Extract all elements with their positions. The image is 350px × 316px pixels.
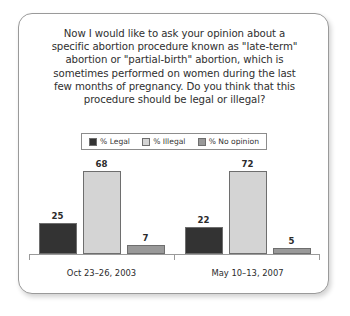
axis-tick-middle [174,255,175,260]
axis-tick-left [29,255,30,260]
chart-legend: % Legal % Illegal % No opinion [81,133,267,150]
bar-rect-illegal-1 [229,171,267,254]
category-label-1: May 10–13, 2007 [175,268,320,278]
bar-rect-legal-1 [185,227,223,254]
legend-item-illegal: % Illegal [142,138,185,146]
legend-swatch-legal-icon [89,138,97,146]
question-line-5: few months of pregnancy. Do you think th… [30,80,319,93]
bar-no-opinion-1: 5 [273,159,311,254]
bar-rect-no-opinion-1 [273,248,311,254]
question-line-1: Now I would like to ask your opinion abo… [30,27,319,40]
legend-item-no-opinion: % No opinion [198,138,259,146]
bar-rect-no-opinion-0 [127,245,165,254]
chart-card: Now I would like to ask your opinion abo… [18,13,329,294]
plot-area: 25 68 7 22 72 [29,160,320,284]
axis-tick-right [319,255,320,260]
legend-label-illegal: % Illegal [153,138,185,146]
question-text: Now I would like to ask your opinion abo… [30,27,319,106]
question-line-6: procedure should be legal or illegal? [30,93,319,106]
legend-swatch-illegal-icon [142,138,150,146]
category-label-0: Oct 23–26, 2003 [29,268,174,278]
bar-value-illegal-0: 68 [96,159,108,169]
bar-rect-legal-0 [39,223,77,254]
bar-rect-illegal-0 [83,171,121,254]
bar-group-1: 22 72 5 [175,159,320,254]
bar-no-opinion-0: 7 [127,159,165,254]
bar-legal-0: 25 [39,159,77,254]
legend-item-legal: % Legal [89,138,130,146]
question-line-3: abortion or "partial-birth" abortion, wh… [30,53,319,66]
legend-swatch-no-opinion-icon [198,138,206,146]
bar-legal-1: 22 [185,159,223,254]
legend-label-legal: % Legal [100,138,130,146]
legend-label-no-opinion: % No opinion [209,138,259,146]
bar-illegal-0: 68 [83,159,121,254]
question-line-2: specific abortion procedure known as "la… [30,40,319,53]
question-line-4: sometimes performed on women during the … [30,67,319,80]
bar-value-no-opinion-1: 5 [289,236,295,246]
bar-group-0: 25 68 7 [29,159,174,254]
bar-illegal-1: 72 [229,159,267,254]
bar-value-illegal-1: 72 [242,159,254,169]
bar-value-legal-1: 22 [198,215,210,225]
bar-value-legal-0: 25 [52,211,64,221]
bar-value-no-opinion-0: 7 [143,233,149,243]
